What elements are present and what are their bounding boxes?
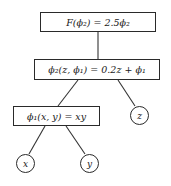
node-phi1-box: ϕ₁(x, y) = xy — [13, 106, 100, 126]
edge-phi2-phi1 — [58, 80, 78, 106]
node-phi1-label: ϕ₁(x, y) = xy — [27, 111, 86, 122]
node-z-label: z — [137, 111, 142, 121]
node-z-circle: z — [130, 106, 149, 125]
edge-phi2-z — [118, 80, 135, 106]
node-F-box: F(ϕ₂) = 2.5ϕ₂ — [40, 12, 156, 32]
node-phi2-label: ϕ₂(z, ϕ₁) = 0.2z + ϕ₁ — [48, 64, 145, 75]
node-y-label: y — [87, 159, 92, 169]
node-phi2-box: ϕ₂(z, ϕ₁) = 0.2z + ϕ₁ — [34, 59, 160, 80]
node-x-circle: x — [16, 154, 35, 173]
edge-phi1-y — [66, 126, 85, 154]
edge-phi1-x — [29, 126, 45, 154]
node-y-circle: y — [80, 154, 99, 173]
computation-tree-diagram: F(ϕ₂) = 2.5ϕ₂ ϕ₂(z, ϕ₁) = 0.2z + ϕ₁ ϕ₁(x… — [0, 0, 171, 186]
node-x-label: x — [23, 159, 28, 169]
node-F-label: F(ϕ₂) = 2.5ϕ₂ — [66, 17, 130, 28]
